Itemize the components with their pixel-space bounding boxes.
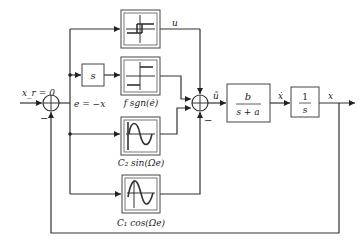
feedback-wire: [51, 103, 339, 233]
sine-block: [121, 117, 160, 155]
u-tilde-label: ũ: [213, 91, 219, 101]
hysteresis-block: [121, 10, 160, 48]
sign-caption: f sgn(ė): [123, 98, 159, 108]
integrator-numerator: 1: [302, 92, 308, 102]
left-sum-minus: −: [40, 113, 48, 124]
plant-denominator: s + a: [236, 107, 259, 117]
right-summing-junction: [192, 95, 208, 111]
block-diagram: x_r = 0 − e = −x s u f sgn(: [0, 0, 363, 249]
cosine-caption: C₁ cos(Ωe): [117, 218, 166, 228]
error-label: e = −x: [74, 99, 105, 109]
x-dot-label: ẋ: [278, 91, 283, 101]
cosine-to-sum: [160, 112, 200, 194]
u-label: u: [172, 18, 178, 28]
cosine-block: [122, 175, 160, 213]
sine-caption: C₂ sin(Ωe): [118, 158, 165, 168]
sign-to-sum: [160, 76, 191, 99]
sine-to-sum: [160, 108, 191, 134]
sign-block: [121, 57, 160, 95]
derivative-label: s: [90, 70, 95, 81]
right-sum-minus: −: [204, 115, 212, 126]
output-label: x: [328, 91, 333, 101]
junction-dot: [68, 132, 72, 136]
junction-dot: [68, 73, 72, 77]
integrator-denominator: s: [303, 105, 308, 115]
left-summing-junction: [43, 95, 59, 111]
plant-numerator: b: [245, 91, 251, 102]
